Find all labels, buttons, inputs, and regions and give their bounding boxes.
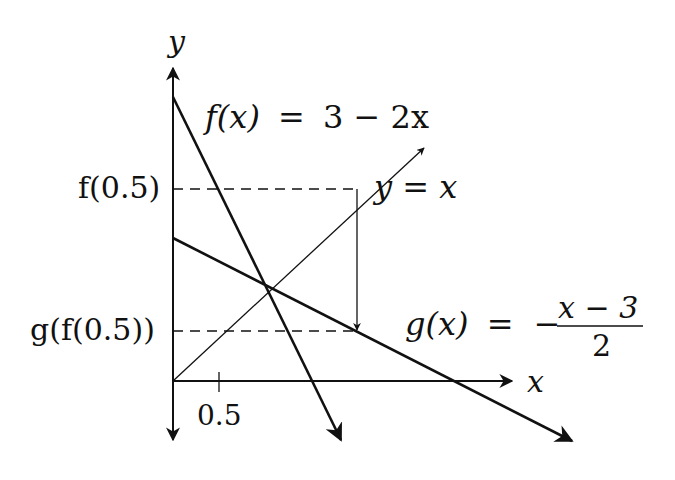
f-line bbox=[173, 97, 341, 440]
f-label: f(x) = 3 − 2x bbox=[203, 98, 429, 136]
x-axis-label: x bbox=[527, 364, 544, 399]
function-diagram: y x 0.5 f(x) = 3 − 2x y = x f(0.5) g(f(0… bbox=[0, 0, 675, 480]
f-half-label: f(0.5) bbox=[78, 170, 160, 205]
g-label-lhs: g(x) = − bbox=[405, 305, 560, 343]
y-axis-label: y bbox=[166, 24, 186, 59]
g-numerator: x − 3 bbox=[558, 290, 638, 325]
g-f-half-label: g(f(0.5)) bbox=[30, 312, 155, 347]
g-denominator: 2 bbox=[592, 328, 611, 363]
x-tick-label: 0.5 bbox=[197, 399, 242, 432]
identity-label: y = x bbox=[372, 168, 457, 206]
